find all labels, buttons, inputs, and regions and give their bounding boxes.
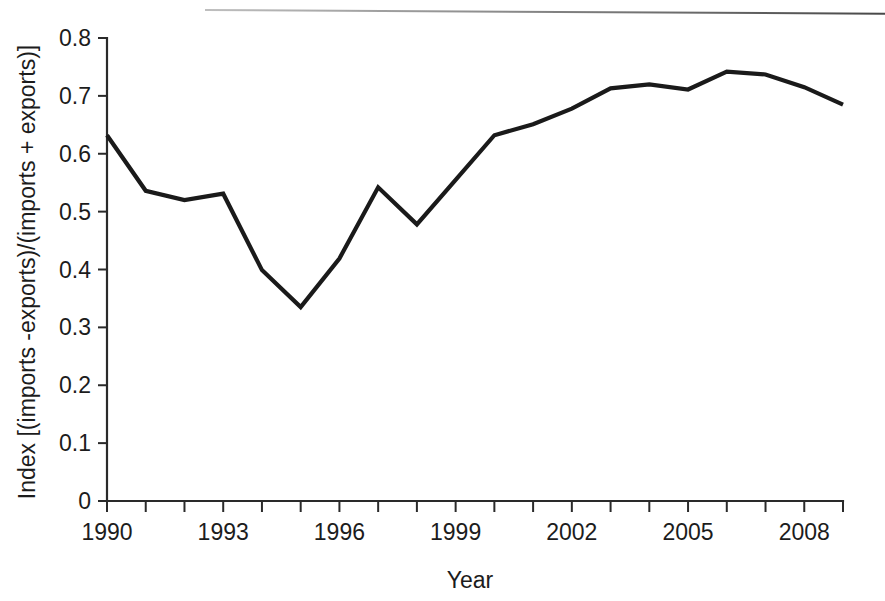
y-tick-label: 0.6: [59, 141, 91, 167]
y-tick-label: 0.4: [59, 257, 91, 283]
chart-figure: 00.10.20.30.40.50.60.70.8 19901993199619…: [0, 0, 885, 601]
y-tick-label: 0.8: [59, 25, 91, 51]
y-axis-tick-labels: 00.10.20.30.40.50.60.70.8: [59, 25, 91, 514]
y-tick-label: 0: [78, 488, 91, 514]
x-tick-label: 1993: [198, 519, 249, 545]
x-tick-label: 1999: [430, 519, 481, 545]
x-axis-tick-labels: 1990199319961999200220052008: [81, 519, 829, 545]
y-axis: [98, 38, 107, 501]
x-tick-label: 1990: [81, 519, 132, 545]
x-tick-label: 2002: [546, 519, 597, 545]
y-tick-label: 0.2: [59, 372, 91, 398]
y-tick-label: 0.1: [59, 430, 91, 456]
x-tick-label: 2005: [662, 519, 713, 545]
data-series-line: [107, 72, 843, 308]
x-axis-title: Year: [447, 567, 494, 593]
x-tick-label: 2008: [779, 519, 830, 545]
line-chart: 00.10.20.30.40.50.60.70.8 19901993199619…: [0, 0, 885, 601]
y-axis-title: Index [(imports -exports)/(imports + exp…: [14, 45, 40, 499]
y-tick-label: 0.5: [59, 199, 91, 225]
y-tick-label: 0.3: [59, 314, 91, 340]
y-tick-label: 0.7: [59, 83, 91, 109]
x-tick-label: 1996: [314, 519, 365, 545]
x-axis: [107, 501, 843, 512]
